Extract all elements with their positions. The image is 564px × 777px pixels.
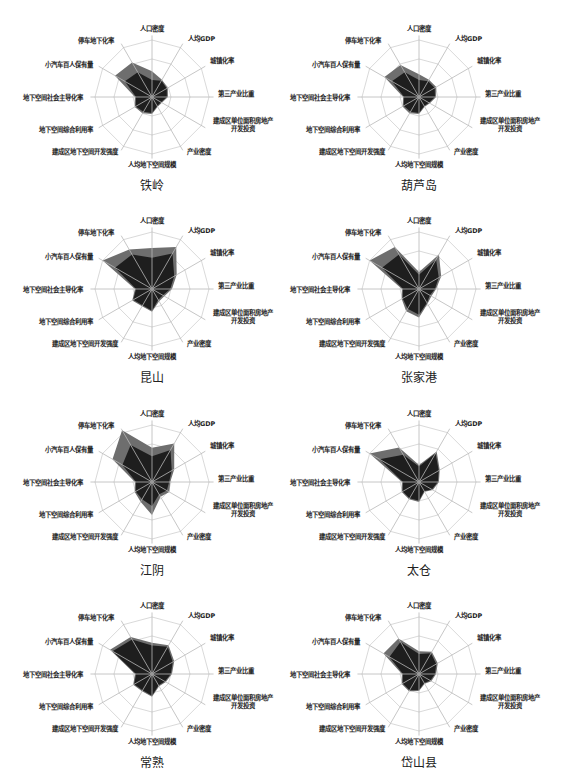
axis-label: 第三产业比重 xyxy=(485,668,521,676)
center-dot xyxy=(417,672,421,676)
axis-label: 建成区地下空间开发强度 xyxy=(319,726,385,734)
axis-label: 小汽车百人保有量 xyxy=(312,254,360,262)
chart-title: 岱山县 xyxy=(278,753,560,770)
axis-label: 地下空间综合利用率 xyxy=(39,704,93,712)
axis-label: 建成区单位面积房地产开发投资 xyxy=(213,310,273,325)
axis-label: 地下空间社会主导化率 xyxy=(23,672,83,680)
axis-label: 城镇化率 xyxy=(477,443,501,451)
axis-label: 建成区单位面积房地产开发投资 xyxy=(480,310,540,325)
axis-label: 人均GDP xyxy=(455,613,482,621)
axis-spoke xyxy=(419,482,472,513)
axis-label: 停车地下化率 xyxy=(78,615,114,623)
axis-label: 建成区单位面积房地产开发投资 xyxy=(213,118,273,133)
axis-label: 城镇化率 xyxy=(210,58,234,66)
axis-label: 停车地下化率 xyxy=(345,423,381,431)
axis-label: 小汽车百人保有量 xyxy=(45,639,93,647)
axis-label: 产业密度 xyxy=(187,534,211,542)
axis-spoke xyxy=(152,289,183,342)
axis-label: 建成区地下空间开发强度 xyxy=(52,726,118,734)
axis-label: 城镇化率 xyxy=(210,443,234,451)
chart-title: 昆山 xyxy=(11,368,293,385)
axis-label: 人均GDP xyxy=(455,228,482,236)
axis-label: 第三产业比重 xyxy=(485,283,521,291)
axis-spoke xyxy=(152,289,205,320)
axis-label: 人均地下空间规模 xyxy=(128,547,176,555)
axis-label: 人均GDP xyxy=(188,613,215,621)
axis-label: 产业密度 xyxy=(454,341,478,349)
center-dot xyxy=(417,95,421,99)
axis-label: 城镇化率 xyxy=(477,58,501,66)
axis-label: 产业密度 xyxy=(187,341,211,349)
axis-label: 建成区单位面积房地产开发投资 xyxy=(480,118,540,133)
axis-label: 停车地下化率 xyxy=(345,230,381,238)
axis-label: 人均地下空间规模 xyxy=(395,547,443,555)
axis-label: 地下空间社会主导化率 xyxy=(23,95,83,103)
axis-label: 停车地下化率 xyxy=(78,230,114,238)
axis-label: 地下空间社会主导化率 xyxy=(23,480,83,488)
axis-label: 地下空间综合利用率 xyxy=(306,512,360,520)
axis-label: 人均GDP xyxy=(455,36,482,44)
axis-label: 人均地下空间规模 xyxy=(395,739,443,747)
axis-label: 地下空间综合利用率 xyxy=(39,127,93,135)
axis-spoke xyxy=(419,97,472,128)
axis-label: 人口密度 xyxy=(140,603,164,611)
axis-label: 人口密度 xyxy=(140,411,164,419)
axis-label: 人均地下空间规模 xyxy=(395,354,443,362)
radar-chart-4: 人口密度人均GDP城镇化率第三产业比重建成区单位面积房地产开发投资产业密度人均地… xyxy=(267,192,549,386)
axis-label: 停车地下化率 xyxy=(78,423,114,431)
axis-label: 人均GDP xyxy=(188,228,215,236)
axis-label: 人口密度 xyxy=(407,26,431,34)
axis-label: 地下空间综合利用率 xyxy=(39,512,93,520)
radar-chart-2: 人口密度人均GDP城镇化率第三产业比重建成区单位面积房地产开发投资产业密度人均地… xyxy=(267,0,549,194)
axis-label: 第三产业比重 xyxy=(485,91,521,99)
center-dot xyxy=(417,480,421,484)
chart-title: 葫芦岛 xyxy=(278,176,560,193)
radar-chart-3: 人口密度人均GDP城镇化率第三产业比重建成区单位面积房地产开发投资产业密度人均地… xyxy=(0,192,282,386)
axis-label: 建成区地下空间开发强度 xyxy=(52,341,118,349)
axis-spoke xyxy=(152,97,205,128)
axis-label: 小汽车百人保有量 xyxy=(312,639,360,647)
axis-spoke xyxy=(152,674,205,705)
axis-spoke xyxy=(419,97,450,150)
center-dot xyxy=(150,672,154,676)
axis-label: 建成区地下空间开发强度 xyxy=(52,534,118,542)
chart-title: 江阴 xyxy=(11,561,293,578)
axis-label: 停车地下化率 xyxy=(78,38,114,46)
axis-label: 产业密度 xyxy=(187,149,211,157)
chart-title: 太仓 xyxy=(278,561,560,578)
axis-label: 小汽车百人保有量 xyxy=(45,254,93,262)
axis-label: 第三产业比重 xyxy=(485,476,521,484)
axis-label: 城镇化率 xyxy=(210,635,234,643)
axis-spoke xyxy=(419,674,450,727)
axis-spoke xyxy=(419,289,450,342)
axis-label: 地下空间综合利用率 xyxy=(306,704,360,712)
axis-label: 地下空间社会主导化率 xyxy=(290,480,350,488)
axis-label: 人均地下空间规模 xyxy=(395,162,443,170)
axis-label: 小汽车百人保有量 xyxy=(312,62,360,70)
axis-label: 产业密度 xyxy=(454,726,478,734)
chart-title: 张家港 xyxy=(278,368,560,385)
axis-spoke xyxy=(152,674,183,727)
radar-chart-1: 人口密度人均GDP城镇化率第三产业比重建成区单位面积房地产开发投资产业密度人均地… xyxy=(0,0,282,194)
axis-label: 停车地下化率 xyxy=(345,38,381,46)
center-dot xyxy=(417,287,421,291)
axis-label: 建成区单位面积房地产开发投资 xyxy=(213,695,273,710)
axis-label: 建成区单位面积房地产开发投资 xyxy=(213,503,273,518)
axis-label: 第三产业比重 xyxy=(218,476,254,484)
axis-label: 人口密度 xyxy=(407,603,431,611)
axis-label: 建成区地下空间开发强度 xyxy=(319,534,385,542)
axis-label: 人均地下空间规模 xyxy=(128,162,176,170)
chart-title: 铁岭 xyxy=(11,176,293,193)
axis-label: 地下空间社会主导化率 xyxy=(290,672,350,680)
axis-label: 城镇化率 xyxy=(477,635,501,643)
axis-label: 城镇化率 xyxy=(477,250,501,258)
axis-label: 人口密度 xyxy=(140,218,164,226)
axis-label: 人口密度 xyxy=(407,218,431,226)
axis-label: 人均GDP xyxy=(455,421,482,429)
axis-label: 地下空间社会主导化率 xyxy=(23,287,83,295)
axis-label: 第三产业比重 xyxy=(218,91,254,99)
axis-label: 产业密度 xyxy=(187,726,211,734)
axis-label: 第三产业比重 xyxy=(218,283,254,291)
center-dot xyxy=(150,480,154,484)
axis-label: 城镇化率 xyxy=(210,250,234,258)
